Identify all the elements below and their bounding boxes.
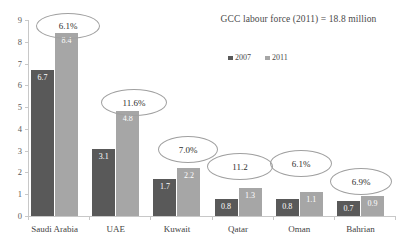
bar-2007-kuwait[interactable]: 1.7: [153, 179, 176, 216]
category-tick: [150, 216, 151, 220]
bar-group: 6.78.4: [31, 20, 78, 216]
bar-2011-qatar[interactable]: 1.3: [239, 188, 262, 216]
category-tick: [273, 216, 274, 220]
bar-2011-bahrian[interactable]: 0.9: [361, 196, 384, 216]
bar-group: 1.72.2: [153, 20, 200, 216]
bar-2011-uae[interactable]: 4.8: [116, 111, 139, 216]
bar-value-label: 6.7: [31, 74, 54, 82]
y-tick-label: 2: [4, 168, 22, 177]
category-tick: [334, 216, 335, 220]
bar-value-label: 4.8: [116, 115, 139, 123]
growth-callout-kuwait: 7.0%: [158, 136, 218, 163]
bar-chart: GCC labour force (2011) = 18.8 million 2…: [0, 0, 403, 249]
bar-group: 3.14.8: [92, 20, 139, 216]
bar-2007-bahrian[interactable]: 0.7: [337, 201, 360, 216]
y-tick-label: 0: [4, 212, 22, 221]
growth-callout-qatar: 11.2: [207, 153, 273, 180]
growth-callout-oman: 6.1%: [270, 150, 332, 177]
bar-2007-saudi-arabia[interactable]: 6.7: [31, 70, 54, 216]
category-tick: [28, 216, 29, 220]
y-tick-label: 1: [4, 190, 22, 199]
category-label-bahrian: Bahrian: [315, 224, 403, 234]
bar-2007-oman[interactable]: 0.8: [276, 199, 299, 216]
bar-value-label: 2.2: [177, 172, 200, 180]
bar-2007-uae[interactable]: 3.1: [92, 149, 115, 217]
y-tick-label: 3: [4, 146, 22, 155]
category-tick: [212, 216, 213, 220]
bar-value-label: 0.8: [276, 203, 299, 211]
bar-value-label: 0.7: [337, 205, 360, 213]
bar-2007-qatar[interactable]: 0.8: [215, 199, 238, 216]
bar-group: 0.81.1: [276, 20, 323, 216]
bar-value-label: 1.7: [153, 183, 176, 191]
category-tick: [395, 216, 396, 220]
bar-2011-oman[interactable]: 1.1: [300, 192, 323, 216]
y-tick-label: 5: [4, 103, 22, 112]
bar-value-label: 0.8: [215, 203, 238, 211]
growth-callout-bahrian: 6.9%: [330, 168, 392, 195]
y-tick-label: 6: [4, 81, 22, 90]
growth-callout-saudi-arabia: 6.1%: [36, 13, 100, 39]
bar-2011-saudi-arabia[interactable]: 8.4: [55, 33, 78, 216]
y-tick-label: 8: [4, 38, 22, 47]
bar-value-label: 1.1: [300, 196, 323, 204]
bar-value-label: 1.3: [239, 192, 262, 200]
growth-callout-uae: 11.6%: [101, 89, 167, 116]
bar-value-label: 0.9: [361, 200, 384, 208]
bar-value-label: 3.1: [92, 153, 115, 161]
category-tick: [89, 216, 90, 220]
y-tick-label: 7: [4, 59, 22, 68]
y-tick-label: 9: [4, 16, 22, 25]
bar-group: 0.81.3: [215, 20, 262, 216]
y-tick-label: 4: [4, 125, 22, 134]
bar-2011-kuwait[interactable]: 2.2: [177, 168, 200, 216]
